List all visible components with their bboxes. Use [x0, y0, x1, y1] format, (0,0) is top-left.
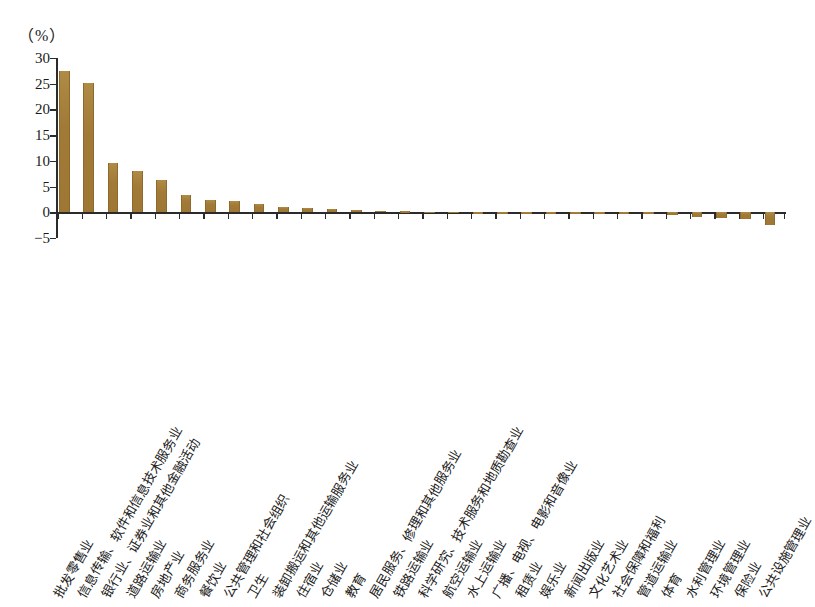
bar — [546, 212, 557, 214]
x-tick-mark — [374, 212, 375, 219]
bar — [132, 171, 143, 212]
y-tick-label: 20 — [35, 102, 50, 117]
y-tick-mark — [50, 135, 56, 136]
x-tick-mark — [349, 212, 350, 219]
x-tick-mark — [252, 212, 253, 219]
bar — [351, 210, 362, 212]
y-tick-mark — [50, 212, 56, 213]
bar — [448, 212, 459, 214]
y-tick-mark — [50, 109, 56, 110]
x-tick-mark — [179, 212, 180, 219]
x-tick-mark — [784, 212, 785, 219]
y-tick-label: 10 — [35, 153, 50, 168]
y-tick-mark — [50, 187, 56, 188]
bar — [181, 195, 192, 212]
x-tick-mark — [130, 212, 131, 219]
bar — [765, 212, 776, 224]
bar — [667, 212, 678, 215]
x-tick-mark — [203, 212, 204, 219]
y-tick-label: 0 — [43, 205, 51, 220]
x-tick-mark — [301, 212, 302, 219]
bar — [205, 200, 216, 212]
bar — [375, 211, 386, 213]
bar — [278, 207, 289, 213]
x-tick-mark — [228, 212, 229, 219]
x-tick-mark — [398, 212, 399, 219]
x-axis-category-labels: 批发零售业信息传输、软件和信息技术服务业银行业、证券业和其他金融活动道路运输业房… — [56, 240, 786, 600]
y-tick-mark — [50, 161, 56, 162]
bar — [740, 212, 751, 219]
bar — [108, 163, 119, 212]
y-tick-label: 30 — [35, 51, 50, 66]
x-axis-label: 公共设施管理业 — [757, 515, 814, 600]
bar — [716, 212, 727, 218]
x-tick-mark — [276, 212, 277, 219]
y-axis-unit-label: （%） — [18, 22, 66, 46]
bar — [229, 201, 240, 212]
x-axis-label: 教育 — [344, 571, 368, 600]
bar — [302, 208, 313, 212]
bar — [59, 71, 70, 212]
x-tick-mark — [106, 212, 107, 219]
y-tick-mark — [50, 84, 56, 85]
bar — [254, 204, 265, 213]
y-tick-label: 5 — [43, 179, 51, 194]
bar — [497, 212, 508, 214]
bar — [692, 212, 703, 217]
y-tick-label: 15 — [35, 128, 50, 143]
x-tick-mark — [325, 212, 326, 219]
x-tick-mark — [155, 212, 156, 219]
y-tick-mark — [50, 58, 56, 59]
bar — [570, 212, 581, 214]
bar — [594, 212, 605, 214]
x-axis-label: 卫生 — [246, 571, 270, 600]
y-tick-label: 25 — [35, 76, 50, 91]
bar — [424, 212, 435, 214]
bar — [83, 83, 94, 212]
x-tick-mark — [447, 212, 448, 219]
bar — [619, 212, 630, 214]
bar — [521, 212, 532, 214]
plot-area: 302520151050−5 — [56, 58, 786, 238]
bar — [327, 209, 338, 212]
y-tick-label: −5 — [34, 231, 50, 246]
y-axis-line — [56, 58, 58, 238]
bar — [473, 212, 484, 214]
x-tick-mark — [82, 212, 83, 219]
bar — [156, 180, 167, 212]
bar — [400, 211, 411, 213]
x-axis-label: 体育 — [660, 571, 684, 600]
bar — [643, 212, 654, 214]
x-tick-mark — [57, 212, 58, 219]
x-tick-mark — [422, 212, 423, 219]
